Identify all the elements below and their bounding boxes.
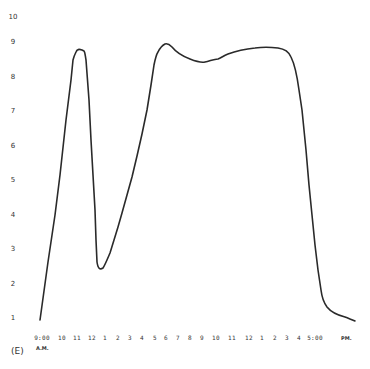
data-line xyxy=(40,44,355,321)
line-plot xyxy=(0,0,370,369)
